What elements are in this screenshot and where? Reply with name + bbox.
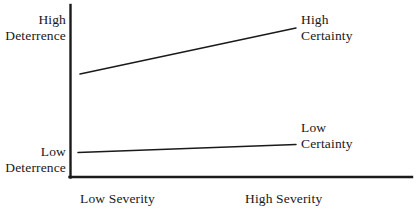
series-line-high-certainty: [80, 28, 296, 74]
x-axis-tick-high-severity: High Severity: [245, 191, 322, 207]
x-axis-tick-low-severity: Low Severity: [80, 191, 155, 207]
y-axis-label-low-line2: Deterrence: [0, 160, 66, 176]
y-axis-label-high-deterrence: High Deterrence: [0, 12, 66, 43]
y-axis-label-low-deterrence: Low Deterrence: [0, 144, 66, 175]
series-label-high-certainty: High Certainty: [301, 12, 353, 43]
series-line-low-certainty: [78, 145, 296, 153]
y-axis-label-high-line1: High: [0, 12, 66, 28]
y-axis-label-high-line2: Deterrence: [0, 28, 66, 44]
y-axis-label-low-line1: Low: [0, 144, 66, 160]
deterrence-severity-chart: High Deterrence Low Deterrence High Cert…: [0, 0, 417, 217]
series-label-high-line2: Certainty: [301, 28, 353, 44]
series-label-low-certainty: Low Certainty: [301, 120, 353, 151]
series-label-low-line2: Certainty: [301, 136, 353, 152]
series-label-low-line1: Low: [301, 120, 353, 136]
series-label-high-line1: High: [301, 12, 353, 28]
